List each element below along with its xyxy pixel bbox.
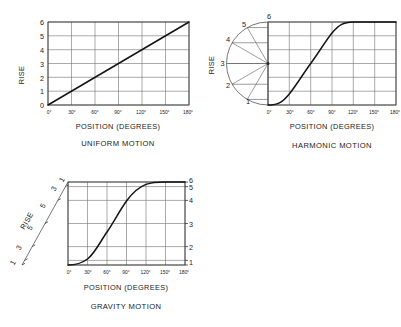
y-tick-6: 6 — [40, 18, 44, 27]
diag-label-1b: 1 — [57, 176, 67, 184]
uniform-caption: UNIFORM MOTION — [81, 139, 155, 148]
y-tick-6: 6 — [189, 176, 193, 185]
x-tick-0: 0° — [47, 110, 52, 115]
semicircle-point-1: 1 — [246, 97, 250, 106]
gravity-diagonal-labels: 1 3 5 5 3 1 — [8, 176, 67, 267]
y-tick-1: 1 — [189, 258, 193, 267]
y-tick-1: 1 — [40, 87, 44, 96]
x-tick-90: 90° — [328, 110, 335, 115]
chart-gravity-motion: 1 3 5 5 3 1 1 2 3 4 5 6 — [0, 160, 240, 327]
x-tick-180: 180° — [179, 270, 189, 275]
x-tick-60: 60° — [103, 270, 110, 275]
diag-label-3: 3 — [14, 244, 24, 252]
semicircle-point-6: 6 — [267, 12, 271, 21]
x-tick-60: 60° — [307, 110, 314, 115]
y-tick-0: 0 — [40, 101, 44, 110]
cam-motion-figure: 0 1 2 3 4 5 6 0° 30° 60° 90° 120° 150° 1… — [0, 0, 401, 327]
x-tick-90: 90° — [122, 270, 129, 275]
uniform-x-axis-label: POSITION (DEGREES) — [76, 122, 161, 131]
uniform-y-tick-labels: 0 1 2 3 4 5 6 — [40, 18, 44, 110]
harmonic-x-tick-labels: 0° 30° 60° 90° 120° 150° 180° — [267, 110, 400, 115]
y-tick-5: 5 — [40, 32, 44, 41]
x-tick-120: 120° — [348, 110, 358, 115]
gravity-y-tick-labels: 1 2 3 4 5 6 — [189, 176, 193, 267]
harmonic-x-axis-label: POSITION (DEGREES) — [290, 122, 375, 131]
x-tick-30: 30° — [68, 110, 75, 115]
y-tick-3: 3 — [189, 220, 193, 229]
gravity-grid — [68, 182, 185, 265]
y-tick-4: 4 — [40, 46, 44, 55]
diag-label-3b: 3 — [49, 185, 59, 193]
x-tick-180: 180° — [183, 110, 193, 115]
diag-label-5b: 5 — [38, 202, 48, 210]
chart-harmonic-motion: 1 2 3 4 5 6 0° 30° 60° 90° 120° 150° 180… — [208, 0, 401, 162]
y-tick-3: 3 — [40, 60, 44, 69]
semicircle-point-5: 5 — [242, 20, 246, 29]
harmonic-y-axis-label: RISE — [207, 56, 216, 75]
y-tick-2: 2 — [40, 74, 44, 83]
x-tick-180: 180° — [390, 110, 400, 115]
harmonic-grid — [268, 22, 396, 105]
x-tick-30: 30° — [286, 110, 293, 115]
x-tick-0: 0° — [267, 110, 272, 115]
x-tick-120: 120° — [136, 110, 146, 115]
gravity-caption: GRAVITY MOTION — [91, 302, 162, 311]
uniform-x-tick-labels: 0° 30° 60° 90° 120° 150° 180° — [47, 110, 193, 115]
semicircle-point-3: 3 — [220, 59, 224, 68]
x-tick-60: 60° — [91, 110, 98, 115]
semicircle-point-2: 2 — [226, 81, 230, 90]
uniform-y-axis-label: RISE — [17, 66, 26, 85]
y-tick-4: 4 — [189, 196, 193, 205]
chart-uniform-motion: 0 1 2 3 4 5 6 0° 30° 60° 90° 120° 150° 1… — [0, 0, 215, 162]
x-tick-90: 90° — [114, 110, 121, 115]
semicircle-point-4: 4 — [226, 35, 230, 44]
harmonic-caption: HARMONIC MOTION — [292, 141, 372, 150]
gravity-x-axis-label: POSITION (DEGREES) — [84, 283, 169, 292]
x-tick-150: 150° — [160, 270, 170, 275]
harmonic-semicircle-labels: 1 2 3 4 5 6 — [220, 12, 271, 107]
y-tick-2: 2 — [189, 243, 193, 252]
x-tick-120: 120° — [140, 270, 150, 275]
x-tick-0: 0° — [67, 270, 72, 275]
diag-label-1: 1 — [8, 259, 18, 267]
harmonic-semicircle-construction — [227, 22, 270, 105]
gravity-x-tick-labels: 0° 30° 60° 90° 120° 150° 180° — [67, 270, 189, 275]
x-tick-150: 150° — [159, 110, 169, 115]
x-tick-30: 30° — [84, 270, 91, 275]
x-tick-150: 150° — [369, 110, 379, 115]
